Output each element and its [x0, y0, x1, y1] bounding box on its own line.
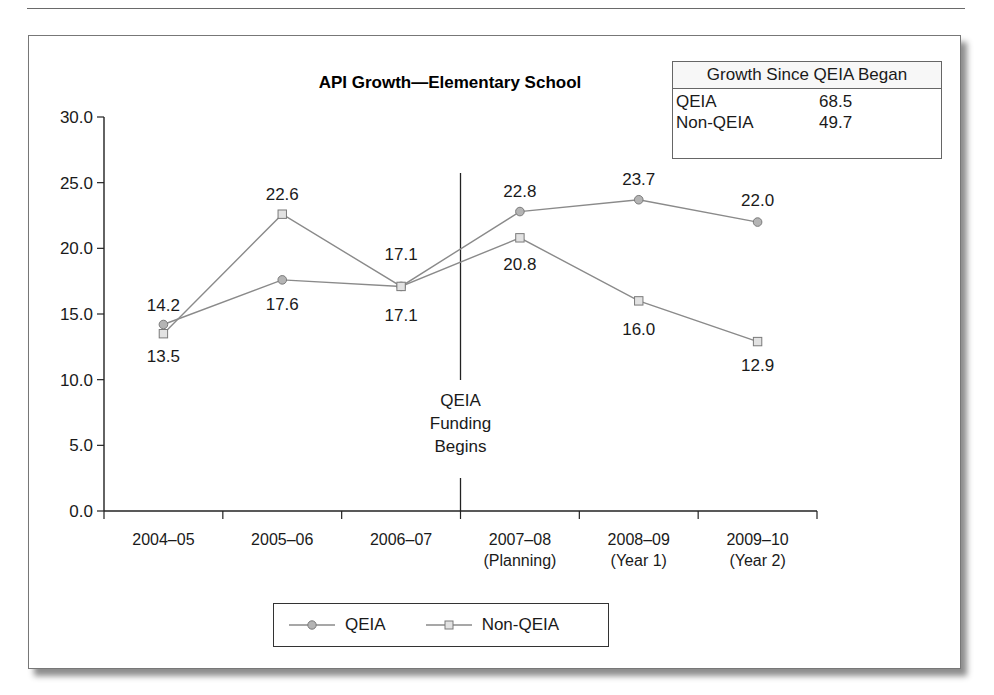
data-label: 20.8: [503, 255, 536, 274]
y-tick-label: 30.0: [60, 108, 93, 127]
data-label: 17.6: [266, 295, 299, 314]
data-label: 12.9: [741, 356, 774, 375]
growth-value: 68.5: [819, 91, 879, 112]
data-point-square: [753, 337, 761, 345]
growth-row-qeia: QEIA 68.5: [673, 91, 941, 112]
data-label: 16.0: [622, 320, 655, 339]
data-point-square: [397, 282, 405, 290]
data-label: 13.5: [147, 347, 180, 366]
data-label: 14.2: [147, 296, 180, 315]
legend-label: QEIA: [345, 615, 386, 635]
data-label: 23.7: [622, 170, 655, 189]
data-label: 17.1: [385, 245, 418, 264]
chart-title: API Growth—Elementary School: [319, 73, 582, 92]
data-label: 22.0: [741, 191, 774, 210]
legend-item-qeia: QEIA: [289, 615, 386, 635]
annotation-label: Funding: [430, 414, 491, 433]
y-tick-label: 10.0: [60, 371, 93, 390]
circle-marker-icon: [289, 618, 335, 632]
x-tick-label: (Planning): [483, 552, 556, 569]
growth-label: QEIA: [676, 91, 819, 112]
growth-label: Non-QEIA: [676, 112, 819, 133]
growth-summary-header: Growth Since QEIA Began: [673, 62, 941, 89]
x-tick-label: 2006–07: [370, 531, 432, 548]
legend-item-non-qeia: Non-QEIA: [426, 615, 559, 635]
growth-row-non-qeia: Non-QEIA 49.7: [673, 112, 941, 133]
annotation-label: Begins: [435, 437, 487, 456]
chart-legend: QEIA Non-QEIA: [273, 603, 609, 647]
data-point-circle: [159, 320, 168, 329]
square-marker-icon: [426, 618, 472, 632]
data-point-circle: [634, 195, 643, 204]
y-tick-label: 0.0: [69, 502, 93, 521]
y-tick-label: 15.0: [60, 305, 93, 324]
y-tick-label: 5.0: [69, 436, 93, 455]
data-point-circle: [278, 276, 287, 285]
x-tick-label: 2007–08: [489, 531, 551, 548]
y-tick-label: 25.0: [60, 174, 93, 193]
data-label: 22.8: [503, 182, 536, 201]
growth-summary-box: Growth Since QEIA Began QEIA 68.5 Non-QE…: [672, 61, 942, 159]
y-tick-label: 20.0: [60, 239, 93, 258]
data-label: 17.1: [385, 306, 418, 325]
data-point-square: [278, 210, 286, 218]
data-label: 22.6: [266, 185, 299, 204]
data-point-square: [516, 234, 524, 242]
x-tick-label: 2008–09: [608, 531, 670, 548]
data-point-circle: [516, 207, 525, 216]
growth-value: 49.7: [819, 112, 879, 133]
legend-label: Non-QEIA: [482, 615, 559, 635]
data-point-square: [635, 297, 643, 305]
x-tick-label: 2004–05: [132, 531, 194, 548]
x-tick-label: (Year 2): [729, 552, 785, 569]
data-point-circle: [753, 218, 762, 227]
x-tick-label: 2005–06: [251, 531, 313, 548]
x-tick-label: 2009–10: [726, 531, 788, 548]
x-tick-label: (Year 1): [611, 552, 667, 569]
annotation-label: QEIA: [440, 391, 481, 410]
data-point-square: [159, 330, 167, 338]
